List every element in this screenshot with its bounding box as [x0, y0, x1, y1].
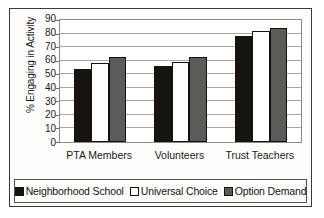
chart-container: % Engaging in Activity 90 80 70 60 50 40… [9, 8, 312, 207]
x-axis-category-label: Volunteers [139, 148, 219, 162]
legend-swatch-icon [15, 187, 24, 196]
bar [252, 31, 270, 142]
y-axis-tickmark [55, 74, 59, 75]
y-tick-label: 80 [32, 28, 56, 38]
plot-area [59, 19, 302, 143]
y-tick-label: 60 [32, 55, 56, 65]
bar [154, 66, 172, 142]
legend-item[interactable]: Neighborhood School [15, 185, 124, 197]
legend-label: Universal Choice [141, 185, 218, 197]
bars-layer [60, 20, 301, 142]
y-tick-label: 90 [32, 14, 56, 24]
x-axis-category-label: PTA Members [59, 148, 139, 162]
legend-swatch-icon [130, 187, 139, 196]
y-axis-tickmark [55, 101, 59, 102]
legend-item[interactable]: Universal Choice [130, 185, 218, 197]
bar [189, 57, 207, 142]
y-axis-tick-labels: 90 80 70 60 50 40 30 20 10 0 [32, 19, 56, 143]
y-tick-label: 50 [32, 69, 56, 79]
y-tick-label: 0 [32, 138, 56, 148]
y-tick-label: 20 [32, 110, 56, 120]
y-axis-tickmark [55, 115, 59, 116]
y-tick-label: 70 [32, 42, 56, 52]
bar [270, 28, 288, 142]
legend-label: Option Demand [235, 185, 307, 197]
chart-legend: Neighborhood SchoolUniversal ChoiceOptio… [14, 179, 307, 203]
y-tick-label: 30 [32, 97, 56, 107]
y-axis-tickmark [55, 34, 59, 35]
legend-label: Neighborhood School [26, 185, 124, 197]
bar [109, 57, 127, 142]
x-axis-category-label: Trust Teachers [220, 148, 300, 162]
bar [91, 63, 109, 142]
y-axis-tickmark [55, 61, 59, 62]
legend-item[interactable]: Option Demand [224, 185, 307, 197]
y-axis-tickmark [55, 142, 59, 143]
bar [172, 62, 190, 142]
x-axis-category-labels: PTA MembersVolunteersTrust Teachers [59, 148, 302, 164]
y-tick-label: 40 [32, 83, 56, 93]
y-tick-label: 10 [32, 124, 56, 134]
y-axis-tickmark [55, 47, 59, 48]
y-axis-tickmark [55, 128, 59, 129]
legend-swatch-icon [224, 187, 233, 196]
y-axis-tickmark [55, 20, 59, 21]
bar [74, 69, 92, 142]
plot-block: % Engaging in Activity 90 80 70 60 50 40… [10, 9, 311, 175]
y-axis-tickmark [55, 88, 59, 89]
bar [235, 36, 253, 142]
